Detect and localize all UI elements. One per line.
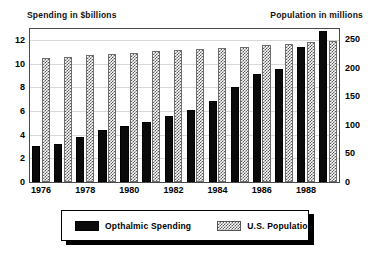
y-tick-label-right: 0: [345, 178, 350, 187]
y-tick-label-left: 0: [20, 178, 25, 187]
bar-spending: [209, 101, 217, 182]
bar-population: [152, 51, 160, 182]
y-tick-label-right: 100: [345, 121, 360, 130]
bar-spending: [98, 130, 106, 182]
x-tick-label: 1984: [204, 186, 232, 195]
bar-spending: [231, 87, 239, 182]
y-tick-label-right: 250: [345, 35, 360, 44]
bar-population: [86, 55, 94, 182]
chart-figure: Spending in $billions Population in mill…: [0, 0, 377, 254]
bar-spending: [165, 116, 173, 182]
bar-population: [108, 54, 116, 182]
right-axis-title: Population in millions: [270, 10, 363, 20]
bar-spending: [275, 69, 283, 182]
legend-swatch-population-icon: [217, 221, 241, 231]
y-tick-label-right: 150: [345, 92, 360, 101]
y-tick-label-left: 4: [20, 131, 25, 140]
chart-legend: Opthalmic Spending U.S. Population: [61, 210, 309, 241]
bar-spending: [76, 137, 84, 182]
x-tick-label: 1978: [71, 186, 99, 195]
x-tick-label: 1976: [27, 186, 55, 195]
bar-population: [218, 48, 226, 182]
bar-spending: [253, 74, 261, 182]
y-tick-label-left: 10: [15, 60, 25, 69]
x-tick-label: 1980: [115, 186, 143, 195]
bar-population: [64, 57, 72, 182]
y-tick-label-left: 8: [20, 83, 25, 92]
legend-label-spending: Opthalmic Spending: [105, 221, 191, 231]
bar-population: [42, 58, 50, 182]
bar-spending: [32, 146, 40, 182]
y-tick-label-left: 2: [20, 154, 25, 163]
bar-population: [240, 47, 248, 182]
y-tick-label-right: 200: [345, 64, 360, 73]
left-axis-title: Spending in $billions: [27, 10, 117, 20]
bars-layer: [30, 28, 339, 182]
bar-spending: [142, 122, 150, 182]
bar-spending: [54, 144, 62, 183]
bar-population: [174, 50, 182, 182]
x-tick-label: 1986: [248, 186, 276, 195]
bar-population: [307, 42, 315, 182]
y-tick-label-left: 6: [20, 107, 25, 116]
legend-item-spending: Opthalmic Spending: [75, 221, 191, 231]
bar-spending: [297, 47, 305, 182]
legend-label-population: U.S. Population: [247, 221, 313, 231]
legend-item-population: U.S. Population: [217, 221, 313, 231]
bar-spending: [120, 126, 128, 182]
y-tick-label-left: 12: [15, 36, 25, 45]
legend-swatch-spending-icon: [75, 221, 99, 231]
y-tick-label-right: 50: [345, 149, 355, 158]
bar-spending: [319, 31, 327, 182]
bar-population: [329, 41, 337, 182]
bar-population: [285, 44, 293, 182]
bar-population: [196, 49, 204, 182]
x-tick-label: 1988: [292, 186, 320, 195]
bar-population: [130, 53, 138, 182]
bar-population: [262, 45, 270, 182]
bar-spending: [187, 110, 195, 182]
x-tick-label: 1982: [159, 186, 187, 195]
